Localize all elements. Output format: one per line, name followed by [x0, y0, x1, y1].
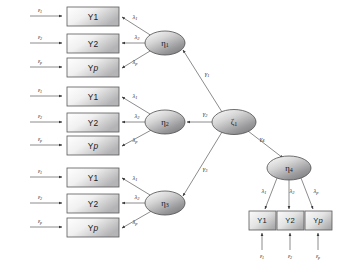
indicator-text-eta3-y1: Y1	[88, 173, 99, 183]
structural-path-gamma1	[183, 50, 222, 112]
loading-label-eta3-y1: λ1	[132, 174, 138, 181]
indicator-text-eta1-y1: Y1	[88, 12, 99, 22]
error-label-eta4-y2: ε2	[288, 253, 292, 260]
block-eta2: ε1 ε2 εp Y1 Y2 Yp λ1 λ2 λp η2	[30, 87, 185, 155]
error-label-eta4-yp: εp	[316, 253, 320, 260]
loading-path-eta3-yp	[122, 209, 155, 228]
error-label-eta1-yp: εp	[38, 58, 42, 65]
indicator-text-eta3-yp: Yp	[88, 223, 99, 233]
loading-label-eta1-y2: λ2	[134, 33, 141, 40]
error-label-eta3-y2: ε2	[38, 194, 42, 201]
block-eta4: η4 λ1 λ2 λp Y1 Y2 Yp ε1 ε2 εp	[249, 156, 332, 260]
indicator-text-eta2-y1: Y1	[88, 92, 99, 102]
structural-path-gamma3	[183, 132, 222, 196]
sem-path-diagram: ε1 ε2 εp Y1 Y2 Yp λ1 λ2 λp η1 ε1 ε2 εp Y…	[0, 0, 343, 263]
indicator-text-eta4-y2: Y2	[285, 216, 294, 225]
structural-path-gamma4	[248, 131, 283, 158]
loading-label-eta1-yp: λp	[132, 58, 139, 65]
indicator-text-eta3-y2: Y2	[88, 199, 99, 209]
structural-label-gamma3: γ3	[203, 165, 209, 172]
error-label-eta3-y1: ε1	[38, 168, 42, 175]
loading-path-eta4-y1	[265, 178, 277, 209]
error-label-eta1-y2: ε2	[38, 34, 42, 41]
indicator-text-eta4-y1: Y1	[257, 216, 266, 225]
loading-path-eta2-yp	[122, 128, 155, 146]
structural-label-gamma4: γ4	[260, 135, 266, 142]
loading-label-eta4-y2: λ2	[289, 187, 296, 194]
error-label-eta3-yp: εp	[38, 218, 42, 225]
block-eta1: ε1 ε2 εp Y1 Y2 Yp λ1 λ2 λp η1	[30, 7, 185, 77]
indicator-text-eta2-yp: Yp	[88, 141, 99, 151]
error-label-eta1-y1: ε1	[38, 7, 42, 14]
error-label-eta2-yp: εp	[38, 136, 42, 143]
indicator-text-eta2-y2: Y2	[88, 118, 99, 128]
error-label-eta4-y1: ε1	[260, 253, 264, 260]
error-label-eta2-y2: ε2	[38, 113, 42, 120]
loading-label-eta2-y2: λ2	[134, 112, 141, 119]
loading-label-eta2-y1: λ1	[132, 92, 138, 99]
diagram-canvas: ε1 ε2 εp Y1 Y2 Yp λ1 λ2 λp η1 ε1 ε2 εp Y…	[0, 0, 343, 263]
structural-label-gamma1: γ1	[205, 70, 210, 77]
loading-path-eta4-yp	[301, 178, 313, 209]
block-eta3: ε1 ε2 εp Y1 Y2 Yp λ1 λ2 λp η3	[30, 168, 185, 237]
error-label-eta2-y1: ε1	[38, 87, 42, 94]
indicator-text-eta1-y2: Y2	[88, 39, 99, 49]
indicator-text-eta4-yp: Yp	[313, 216, 322, 225]
loading-label-eta4-y1: λ1	[261, 187, 267, 194]
structural-label-gamma2: γ2	[203, 110, 209, 117]
loading-label-eta1-y1: λ1	[132, 13, 138, 20]
loading-label-eta3-y2: λ2	[134, 193, 141, 200]
loading-label-eta4-yp: λp	[313, 187, 320, 194]
indicator-text-eta1-yp: Yp	[88, 63, 99, 73]
